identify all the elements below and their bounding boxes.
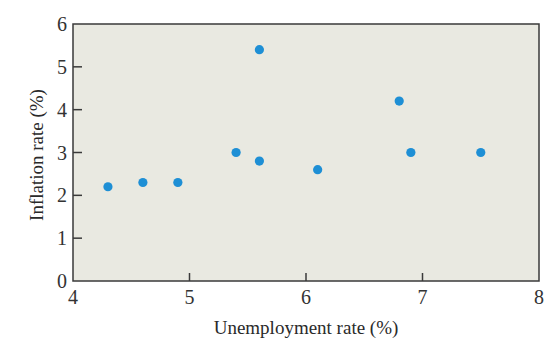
x-tick-label: 7 <box>418 286 428 308</box>
data-point <box>476 148 485 157</box>
data-point <box>173 178 182 187</box>
plot-area <box>73 24 539 281</box>
x-tick-label: 8 <box>534 286 544 308</box>
data-point <box>313 165 322 174</box>
x-tick-label: 5 <box>185 286 195 308</box>
y-tick-label: 5 <box>57 56 67 78</box>
data-point <box>103 182 112 191</box>
y-tick-label: 1 <box>57 227 67 249</box>
data-point <box>232 148 241 157</box>
x-tick-label: 6 <box>301 286 311 308</box>
data-point <box>255 45 264 54</box>
y-tick-label: 2 <box>57 184 67 206</box>
y-tick-label: 4 <box>57 99 67 121</box>
data-point <box>255 156 264 165</box>
data-point <box>395 97 404 106</box>
y-tick-label: 6 <box>57 13 67 35</box>
y-tick-label: 0 <box>57 270 67 292</box>
y-tick-label: 3 <box>57 142 67 164</box>
x-axis-title: Unemployment rate (%) <box>214 317 399 339</box>
data-point <box>138 178 147 187</box>
y-axis-title: Inflation rate (%) <box>26 89 48 221</box>
x-tick-label: 4 <box>68 286 78 308</box>
data-point <box>406 148 415 157</box>
scatter-chart: 0123456 45678 Unemployment rate (%) Infl… <box>0 0 559 354</box>
